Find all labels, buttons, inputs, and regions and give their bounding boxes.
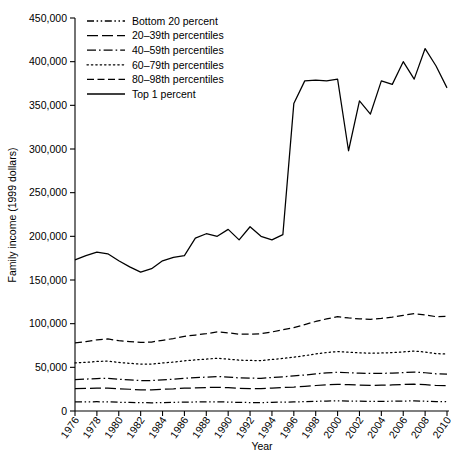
y-axis-tick-label: 200,000 bbox=[29, 230, 67, 242]
y-axis-tick-label: 150,000 bbox=[29, 274, 67, 286]
y-axis-tick-label: 300,000 bbox=[29, 143, 67, 155]
chart-container: 050,000100,000150,000200,000250,000300,0… bbox=[0, 0, 459, 456]
income-percentiles-line-chart: 050,000100,000150,000200,000250,000300,0… bbox=[0, 0, 459, 456]
y-axis-title: Family income (1999 dollars) bbox=[6, 148, 18, 283]
y-axis-tick-label: 400,000 bbox=[29, 55, 67, 67]
y-axis-tick-label: 0 bbox=[61, 405, 67, 417]
legend-label: 60–79th percentiles bbox=[132, 59, 224, 71]
x-axis-title: Year bbox=[251, 440, 273, 452]
legend-label: 20–39th percentiles bbox=[132, 29, 224, 41]
legend-label: Top 1 percent bbox=[132, 88, 196, 100]
legend-label: 80–98th percentiles bbox=[132, 73, 224, 85]
y-axis-tick-label: 50,000 bbox=[35, 361, 67, 373]
y-axis-tick-label: 450,000 bbox=[29, 12, 67, 24]
legend-label: 40–59th percentiles bbox=[132, 44, 224, 56]
y-axis-tick-label: 250,000 bbox=[29, 186, 67, 198]
y-axis-tick-label: 100,000 bbox=[29, 317, 67, 329]
y-axis-tick-label: 350,000 bbox=[29, 99, 67, 111]
legend-label: Bottom 20 percent bbox=[132, 15, 218, 27]
